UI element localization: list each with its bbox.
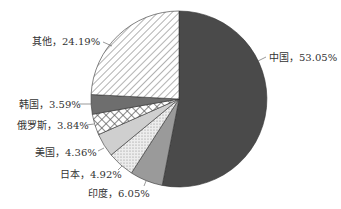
leader-usa bbox=[98, 148, 104, 151]
label-japan: 日本，4.92% bbox=[60, 168, 122, 180]
label-others: 其他，24.19% bbox=[32, 35, 100, 47]
leader-india bbox=[144, 181, 146, 186]
label-china: 中国，53.05% bbox=[269, 51, 337, 63]
label-usa: 美国，4.36% bbox=[35, 146, 97, 158]
leader-china bbox=[258, 57, 266, 61]
slice-others bbox=[91, 11, 179, 99]
label-korea: 韩国，3.59% bbox=[19, 98, 81, 110]
pie-slices bbox=[91, 11, 267, 187]
pie-chart: 中国，53.05% 印度，6.05% 日本，4.92% 美国，4.36% 俄罗斯… bbox=[0, 0, 341, 209]
label-russia: 俄罗斯，3.84% bbox=[17, 119, 89, 131]
label-india: 印度，6.05% bbox=[88, 187, 150, 199]
